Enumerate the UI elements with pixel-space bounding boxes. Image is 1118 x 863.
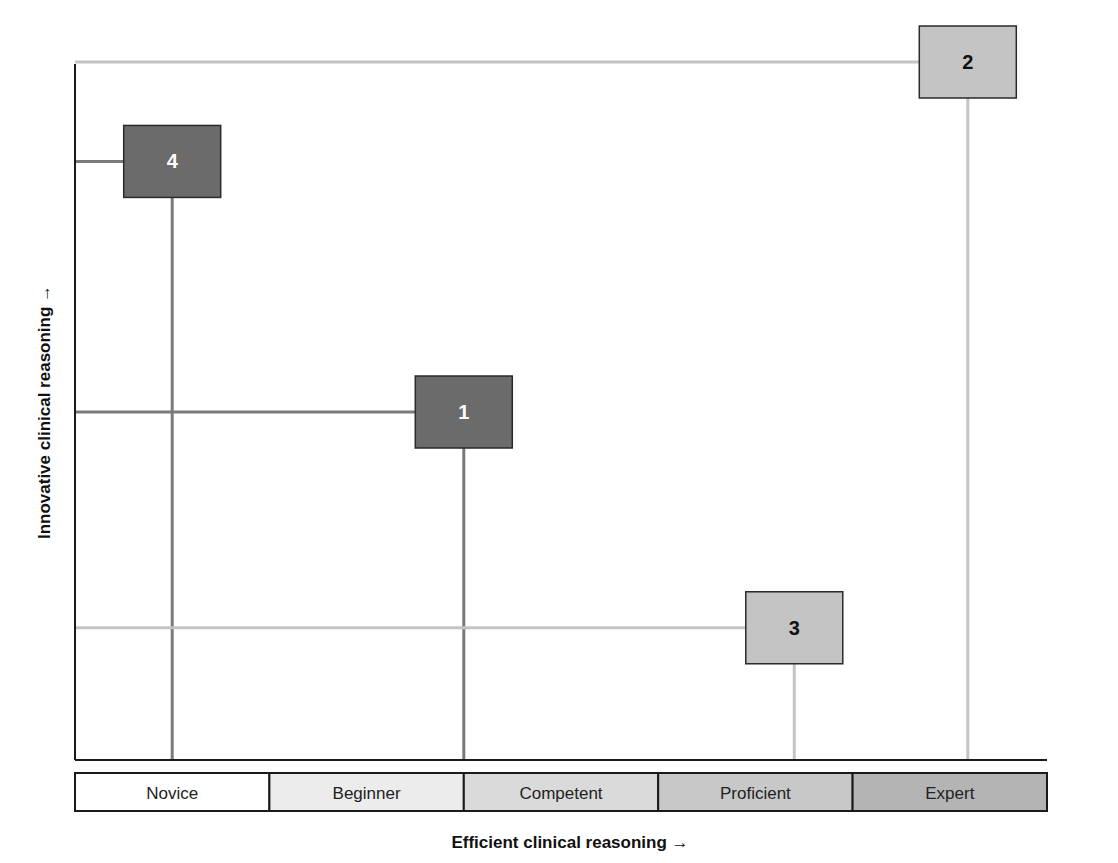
scale-label: Competent — [519, 784, 602, 803]
point-label-1: 1 — [458, 401, 469, 423]
scale-label: Expert — [925, 784, 974, 803]
point-boxes: 4132 — [124, 26, 1017, 664]
scale-label: Novice — [146, 784, 198, 803]
scale-label: Beginner — [333, 784, 401, 803]
point-label-2: 2 — [962, 51, 973, 73]
point-label-3: 3 — [789, 617, 800, 639]
x-axis-title: Efficient clinical reasoning → — [451, 833, 688, 852]
clinical-reasoning-diagram: 4132 NoviceBeginnerCompetentProficientEx… — [0, 0, 1118, 863]
scale-label: Proficient — [720, 784, 791, 803]
point-label-4: 4 — [167, 150, 179, 172]
y-axis-title: Innovative clinical reasoning → — [35, 285, 54, 539]
proficiency-scale: NoviceBeginnerCompetentProficientExpert — [75, 773, 1047, 811]
